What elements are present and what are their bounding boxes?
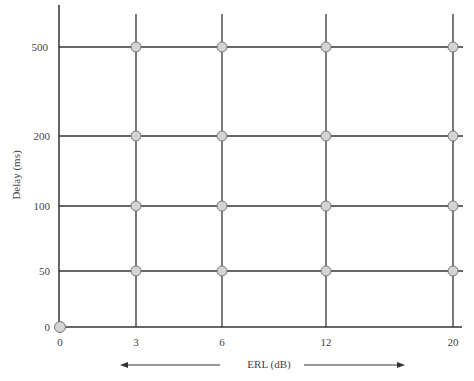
marker — [217, 201, 227, 211]
marker — [217, 131, 227, 141]
marker — [321, 42, 331, 52]
horizontal-gridlines — [59, 47, 463, 271]
x-tick-label: 3 — [133, 336, 139, 348]
x-tick-label: 6 — [219, 336, 225, 348]
marker — [217, 266, 227, 276]
marker — [448, 42, 458, 52]
marker — [217, 42, 227, 52]
marker — [321, 266, 331, 276]
x-tick-label: 20 — [448, 336, 460, 348]
marker — [131, 131, 141, 141]
marker — [131, 266, 141, 276]
left-arrow-icon — [120, 362, 220, 368]
x-axis-label: ERL (dB) — [247, 358, 291, 371]
marker — [131, 201, 141, 211]
vertical-gridlines — [136, 14, 453, 327]
y-tick-label: 0 — [45, 321, 51, 333]
marker — [448, 201, 458, 211]
marker — [321, 131, 331, 141]
marker — [321, 201, 331, 211]
x-tick-label: 12 — [321, 336, 332, 348]
data-markers — [55, 42, 459, 333]
y-tick-label: 50 — [39, 265, 51, 277]
y-axis-label: Delay (ms) — [10, 150, 23, 200]
y-tick-label: 100 — [34, 200, 51, 212]
y-tick-label: 500 — [32, 41, 49, 53]
marker — [131, 42, 141, 52]
x-tick-label: 0 — [57, 336, 63, 348]
y-tick-label: 200 — [34, 130, 51, 142]
marker — [55, 322, 66, 333]
chart: 500 200 100 50 0 0 3 6 12 20 Delay (ms) … — [0, 0, 474, 381]
marker — [448, 266, 458, 276]
marker — [448, 131, 458, 141]
right-arrow-icon — [304, 362, 405, 368]
